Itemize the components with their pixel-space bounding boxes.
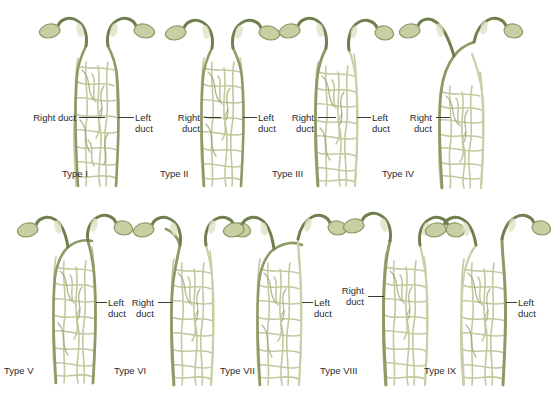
label-right-duct: Right duct bbox=[380, 112, 432, 134]
caption-type-5: Type V bbox=[4, 365, 34, 376]
caption-type-2: Type II bbox=[160, 168, 189, 179]
leader-line-right-duct bbox=[368, 296, 384, 297]
label-right-duct-line-1: Right duct bbox=[0, 112, 76, 123]
panel-type-2: Right duct Left duct Type II bbox=[160, 0, 280, 197]
label-right-duct-line-2: duct bbox=[102, 308, 154, 319]
panel-type-4: Right duct Type IV bbox=[392, 0, 522, 197]
leader-line-right-duct bbox=[158, 302, 172, 303]
label-left-duct-line-2: duct bbox=[518, 308, 556, 319]
panel-type-1: Right duct Left duct Type I bbox=[30, 0, 160, 197]
label-right-duct: Right duct bbox=[262, 112, 314, 134]
leader-line-left-duct bbox=[357, 117, 371, 118]
caption-type-4: Type IV bbox=[382, 168, 414, 179]
label-right-duct: Right duct bbox=[0, 112, 76, 123]
panel-type-3: Right duct Left duct Type III bbox=[272, 0, 394, 197]
label-right-duct-line-2: duct bbox=[262, 123, 314, 134]
leader-line-left-duct bbox=[506, 302, 517, 303]
label-right-duct-line-1: Right bbox=[102, 297, 154, 308]
leader-line-left-duct bbox=[243, 117, 257, 118]
leader-line-right-duct bbox=[79, 117, 105, 118]
caption-type-3: Type III bbox=[272, 168, 303, 179]
leader-line-left-duct bbox=[118, 117, 134, 118]
panel-type-9: Left duct Type IX bbox=[436, 197, 546, 394]
caption-type-8: Type VIII bbox=[320, 365, 358, 376]
caption-type-7: Type VII bbox=[220, 365, 255, 376]
label-right-duct-line-1: Right bbox=[262, 112, 314, 123]
leader-line-right-duct bbox=[318, 117, 336, 118]
duct-illustration-type-1 bbox=[30, 0, 160, 197]
panel-row-bottom: Left duct Type V bbox=[0, 197, 546, 394]
caption-type-1: Type I bbox=[62, 168, 88, 179]
label-right-duct-line-1: Right bbox=[380, 112, 432, 123]
leader-line-right-duct bbox=[204, 117, 221, 118]
caption-type-9: Type IX bbox=[424, 365, 456, 376]
label-right-duct-line-2: duct bbox=[380, 123, 432, 134]
label-right-duct-line-2: duct bbox=[312, 296, 364, 307]
label-left-duct: Left duct bbox=[518, 297, 556, 319]
label-right-duct: Right duct bbox=[102, 297, 154, 319]
label-right-duct-line-1: Right bbox=[148, 112, 200, 123]
label-right-duct: Right duct bbox=[312, 285, 364, 307]
leader-line-right-duct bbox=[436, 117, 450, 118]
label-left-duct-line-1: Left bbox=[518, 297, 556, 308]
caption-type-6: Type VI bbox=[114, 365, 146, 376]
label-right-duct-line-2: duct bbox=[148, 123, 200, 134]
label-right-duct-line-1: Right bbox=[312, 285, 364, 296]
panel-row-top: Right duct Left duct Type I bbox=[0, 0, 546, 197]
label-right-duct: Right duct bbox=[148, 112, 200, 134]
